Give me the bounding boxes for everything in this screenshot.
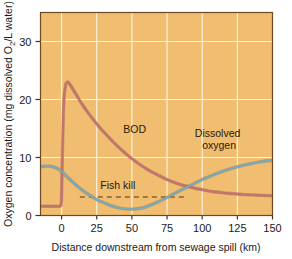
x-axis-title: Distance downstream from sewage spill (k… [52,241,261,253]
annotation-label-fish-kill: Fish kill [100,179,135,191]
x-tick-label: 150 [263,222,281,234]
x-tick-label: 75 [161,222,173,234]
x-tick-label: 125 [228,222,246,234]
y-tick-labels: 0102030 [19,36,31,222]
series-label-bod: BOD [123,123,146,135]
x-tick-label: 25 [91,222,103,234]
y-tick-label: 0 [25,210,31,222]
y-tick-label: 10 [19,152,31,164]
x-tick-label: 50 [126,222,138,234]
y-axis-title: Oxygen concentration (mg dissolved O2/L … [2,1,17,227]
x-tick-labels: 0255075100125150 [59,222,282,234]
oxygen-sag-chart: 0255075100125150 0102030 BOD Dissolved o… [0,0,292,259]
x-tick-label: 0 [59,222,65,234]
series-label-do-line2: oxygen [202,139,236,151]
y-axis-title-part2: /L water) [2,1,14,41]
y-axis-title-part1: Oxygen concentration (mg dissolved O [2,46,14,227]
y-tick-label: 30 [19,36,31,48]
chart-figure: 0255075100125150 0102030 BOD Dissolved o… [0,0,292,259]
series-label-do-line1: Dissolved [195,127,241,139]
x-tick-label: 100 [193,222,211,234]
y-tick-label: 20 [19,94,31,106]
